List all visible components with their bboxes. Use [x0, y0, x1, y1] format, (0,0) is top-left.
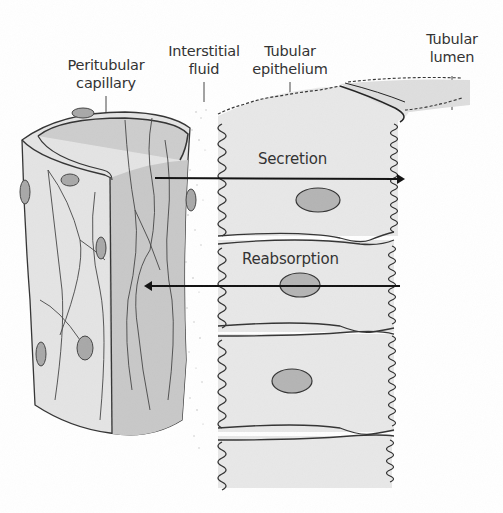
- label-peritubular-capillary: Peritubular capillary: [60, 56, 152, 92]
- label-interstitial-fluid: Interstitial fluid: [162, 42, 246, 78]
- label-reabsorption: Reabsorption: [242, 250, 339, 268]
- tubular-epithelium: [218, 78, 470, 491]
- label-secretion: Secretion: [258, 150, 327, 168]
- peritubular-capillary: [20, 108, 196, 435]
- label-tubular-epithelium: Tubular epithelium: [248, 42, 332, 78]
- label-tubular-lumen: Tubular lumen: [420, 30, 484, 66]
